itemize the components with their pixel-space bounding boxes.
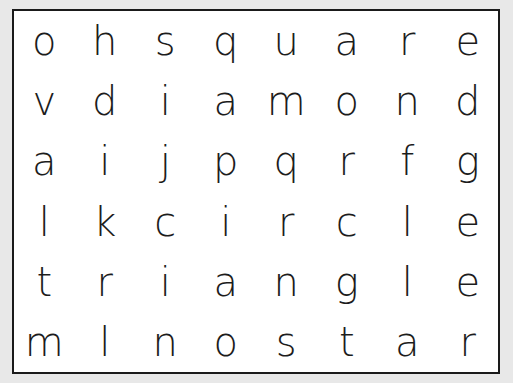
grid-cell[interactable]: g [438,131,499,191]
grid-cell[interactable]: i [75,131,136,191]
grid-cell[interactable]: r [317,131,378,191]
grid-cell[interactable]: a [196,252,257,312]
grid-cell[interactable]: j [135,131,196,191]
grid-cell[interactable]: i [135,71,196,131]
grid-cell[interactable]: a [317,11,378,71]
grid-cell[interactable]: o [196,312,257,372]
grid-cell[interactable]: d [75,71,136,131]
grid-cell[interactable]: g [317,252,378,312]
grid-cell[interactable]: v [14,71,75,131]
grid-cell[interactable]: m [256,71,317,131]
grid-cell[interactable]: l [377,192,438,252]
grid-cell[interactable]: s [135,11,196,71]
grid-cell[interactable]: p [196,131,257,191]
grid-cell[interactable]: a [196,71,257,131]
grid-cell[interactable]: n [256,252,317,312]
grid-cell[interactable]: d [438,71,499,131]
grid-cell[interactable]: l [14,192,75,252]
grid-cell[interactable]: e [438,192,499,252]
grid-cell[interactable]: l [377,252,438,312]
letter-grid: o h s q u a r e v d i a m o n d a i j p … [14,11,498,372]
grid-cell[interactable]: k [75,192,136,252]
grid-cell[interactable]: f [377,131,438,191]
grid-cell[interactable]: r [256,192,317,252]
grid-cell[interactable]: c [317,192,378,252]
grid-cell[interactable]: r [438,312,499,372]
grid-cell[interactable]: t [317,312,378,372]
word-search-frame: o h s q u a r e v d i a m o n d a i j p … [12,9,500,374]
grid-cell[interactable]: t [14,252,75,312]
grid-cell[interactable]: h [75,11,136,71]
grid-cell[interactable]: r [75,252,136,312]
grid-cell[interactable]: m [14,312,75,372]
grid-cell[interactable]: o [14,11,75,71]
grid-cell[interactable]: c [135,192,196,252]
grid-cell[interactable]: a [14,131,75,191]
grid-cell[interactable]: e [438,252,499,312]
grid-cell[interactable]: n [135,312,196,372]
grid-cell[interactable]: n [377,71,438,131]
grid-cell[interactable]: a [377,312,438,372]
grid-cell[interactable]: s [256,312,317,372]
grid-cell[interactable]: u [256,11,317,71]
grid-cell[interactable]: q [256,131,317,191]
grid-cell[interactable]: i [196,192,257,252]
grid-cell[interactable]: i [135,252,196,312]
grid-cell[interactable]: l [75,312,136,372]
grid-cell[interactable]: o [317,71,378,131]
grid-cell[interactable]: q [196,11,257,71]
grid-cell[interactable]: e [438,11,499,71]
grid-cell[interactable]: r [377,11,438,71]
